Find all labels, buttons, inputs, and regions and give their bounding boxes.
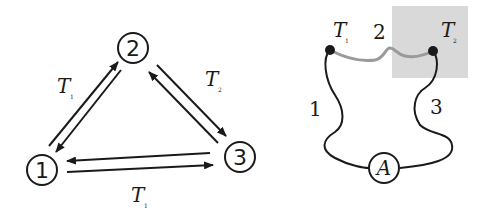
edge-13-label: T 1 — [131, 183, 148, 209]
diagram-canvas: 2 1 3 T 1 T 2 T 1 — [0, 0, 491, 221]
svg-text:1: 1 — [70, 93, 74, 100]
node-1-label: 1 — [35, 158, 49, 183]
wire-1 — [324, 50, 369, 168]
thermocouple-circuit-diagram: A T 1 T 2 2 1 3 — [309, 6, 468, 183]
svg-text:2: 2 — [218, 86, 222, 93]
svg-text:1: 1 — [345, 37, 349, 44]
edge-12-label: T 1 — [57, 74, 74, 100]
state-triangle-diagram: 2 1 3 T 1 T 2 T 1 — [27, 33, 255, 209]
wire-1-label: 1 — [309, 97, 322, 121]
node-2-label: 2 — [126, 36, 140, 61]
wire-3-label: 3 — [430, 95, 443, 119]
node-3-label: 3 — [233, 145, 247, 170]
arrow-3-to-1 — [67, 153, 210, 161]
junction-t1 — [325, 45, 335, 55]
node-3: 3 — [225, 142, 255, 172]
wire-2-label: 2 — [373, 20, 386, 44]
junction-t2 — [428, 46, 438, 56]
node-2: 2 — [118, 33, 148, 63]
node-1: 1 — [27, 155, 57, 185]
svg-text:2: 2 — [453, 37, 457, 44]
ammeter: A — [369, 153, 399, 183]
junction-t1-label: T 1 — [333, 18, 349, 44]
ammeter-label: A — [375, 156, 391, 180]
edge-23-label: T 2 — [205, 67, 222, 93]
arrow-1-to-3 — [67, 165, 213, 172]
svg-text:1: 1 — [144, 202, 148, 209]
